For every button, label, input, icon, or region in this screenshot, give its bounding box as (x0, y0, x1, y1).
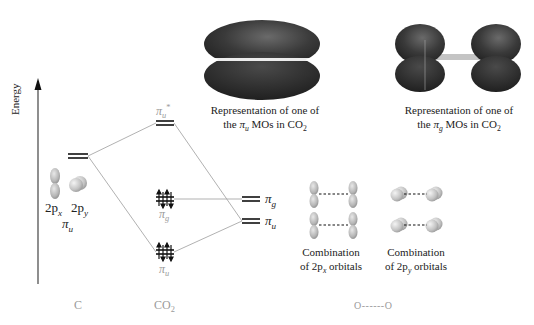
co2-pi-u-label: πu (159, 262, 169, 278)
co2-pi-u-level (156, 243, 174, 261)
mo-diagram: Energy 2px 2py πu πu* πg πu πg πu C CO2 … (0, 0, 534, 325)
carbon-2px-label: 2px (45, 200, 62, 218)
2px-combination-icons (310, 181, 358, 239)
oxygen-pi-u-level (242, 219, 260, 223)
energy-axis-label: Energy (9, 83, 21, 115)
pi-u-mo-picture (204, 20, 320, 100)
co2-pi-g-label: πg (159, 207, 169, 223)
2py-combination-icons (391, 187, 443, 233)
carbon-column-label: C (74, 298, 82, 313)
correlation-lines (88, 123, 242, 252)
oxygen-column-label: O------O (354, 300, 392, 311)
co2-pi-g-level (156, 190, 174, 208)
oxygen-pi-g-level (242, 197, 260, 201)
energy-axis (35, 78, 42, 284)
carbon-2px-orbital-icon (50, 168, 60, 199)
pi-g-mo-caption: Representation of one of the πg MOs in C… (389, 103, 529, 136)
2py-combination-caption: Combination of 2py orbitals (381, 245, 451, 278)
carbon-pi-u-label: πu (62, 216, 73, 234)
carbon-2p-level (68, 154, 88, 158)
co2-pi-u-star-label: πu* (156, 103, 170, 120)
pi-u-mo-caption: Representation of one of the πu MOs in C… (195, 103, 335, 136)
oxygen-pi-u-label: πu (265, 213, 276, 231)
oxygen-pi-g-label: πg (265, 191, 276, 209)
2px-combination-caption: Combination of 2px orbitals (296, 245, 366, 278)
co2-pi-u-star-level (156, 121, 174, 125)
diagram-graphics (0, 0, 534, 325)
carbon-2py-label: 2py (71, 200, 88, 218)
electron-arrows (157, 243, 173, 261)
pi-g-mo-picture (395, 24, 521, 92)
carbon-2py-orbital-icon (69, 176, 87, 192)
co2-column-label: CO2 (154, 298, 175, 314)
electron-arrows (157, 190, 173, 208)
